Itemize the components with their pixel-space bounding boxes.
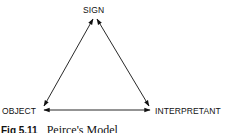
edge-sign-object: [44, 19, 93, 106]
edge-sign-interpretant: [97, 19, 149, 106]
node-label-object: OBJECT: [2, 107, 36, 116]
figure-number: Fig 5.11: [1, 125, 38, 133]
node-label-sign: SIGN: [83, 6, 104, 15]
figure-title: Peirce's Model: [47, 123, 118, 133]
node-label-interpretant: INTERPRETANT: [155, 107, 221, 116]
figure-caption: Fig 5.11 Peirce's Model: [1, 124, 118, 133]
